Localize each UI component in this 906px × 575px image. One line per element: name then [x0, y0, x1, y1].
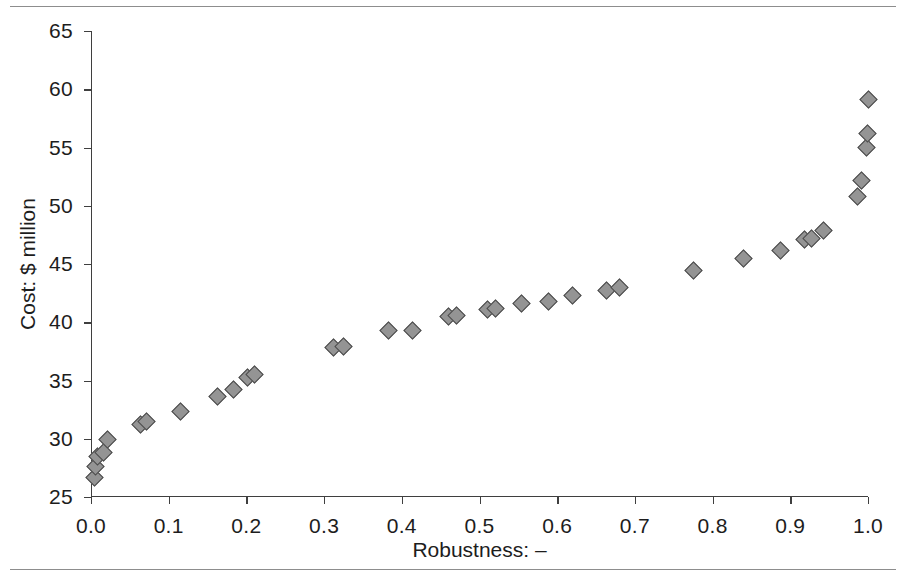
y-tick: 30 [84, 439, 91, 440]
data-point [859, 91, 877, 109]
y-tick-label: 30 [49, 427, 73, 451]
bottom-divider-rule [10, 569, 896, 570]
y-tick: 25 [84, 497, 91, 498]
y-tick: 60 [84, 89, 91, 90]
data-point [564, 286, 582, 304]
x-axis-title: Robustness: – [91, 538, 868, 562]
x-tick: 0.9 [790, 497, 791, 504]
data-point [772, 241, 790, 259]
x-tick: 0.4 [402, 497, 403, 504]
y-tick-label: 65 [49, 19, 73, 43]
y-tick: 35 [84, 381, 91, 382]
y-axis-title-text: Cost: $ million [16, 198, 40, 330]
data-point [848, 187, 866, 205]
figure-scatter-cost-vs-robustness: Cost: $ million 253035404550556065 0.00.… [0, 0, 906, 575]
x-tick-label: 0.1 [154, 514, 184, 538]
x-tick-label: 0.5 [464, 514, 494, 538]
y-tick: 40 [84, 322, 91, 323]
x-tick-label: 0.4 [387, 514, 417, 538]
y-tick: 45 [84, 264, 91, 265]
x-tick: 1.0 [868, 497, 869, 504]
y-tick-label: 40 [49, 310, 73, 334]
top-divider-rule [10, 6, 896, 7]
x-tick-label: 0.3 [309, 514, 339, 538]
y-tick: 65 [84, 31, 91, 32]
y-tick-label: 25 [49, 485, 73, 509]
x-tick-label: 1.0 [853, 514, 883, 538]
data-point [403, 321, 421, 339]
data-point [685, 262, 703, 280]
x-tick-label: 0.8 [698, 514, 728, 538]
x-tick: 0.5 [480, 497, 481, 504]
x-tick: 0.3 [324, 497, 325, 504]
x-tick-label: 0.7 [620, 514, 650, 538]
x-tick: 0.0 [91, 497, 92, 504]
y-tick: 50 [84, 206, 91, 207]
y-tick-label: 60 [49, 77, 73, 101]
x-tick: 0.7 [635, 497, 636, 504]
y-tick-label: 50 [49, 194, 73, 218]
x-tick: 0.2 [246, 497, 247, 504]
x-tick-label: 0.0 [76, 514, 106, 538]
data-point [610, 278, 628, 296]
data-point [208, 388, 226, 406]
x-tick: 0.6 [557, 497, 558, 504]
data-point [734, 249, 752, 267]
y-tick-label: 55 [49, 136, 73, 160]
x-tick: 0.8 [713, 497, 714, 504]
data-point [853, 171, 871, 189]
x-tick-label: 0.6 [542, 514, 572, 538]
x-tick-label: 0.2 [231, 514, 261, 538]
data-point [512, 294, 530, 312]
x-tick-label: 0.9 [775, 514, 805, 538]
plot-area: 253035404550556065 0.00.10.20.30.40.50.6… [91, 31, 868, 497]
x-tick: 0.1 [169, 497, 170, 504]
y-tick-label: 35 [49, 369, 73, 393]
data-point [539, 292, 557, 310]
data-point [171, 403, 189, 421]
data-point [858, 124, 876, 142]
y-axis-line [91, 31, 92, 497]
data-point [379, 321, 397, 339]
data-point [334, 338, 352, 356]
y-tick-label: 45 [49, 252, 73, 276]
y-tick: 55 [84, 148, 91, 149]
y-axis-title: Cost: $ million [14, 31, 42, 497]
